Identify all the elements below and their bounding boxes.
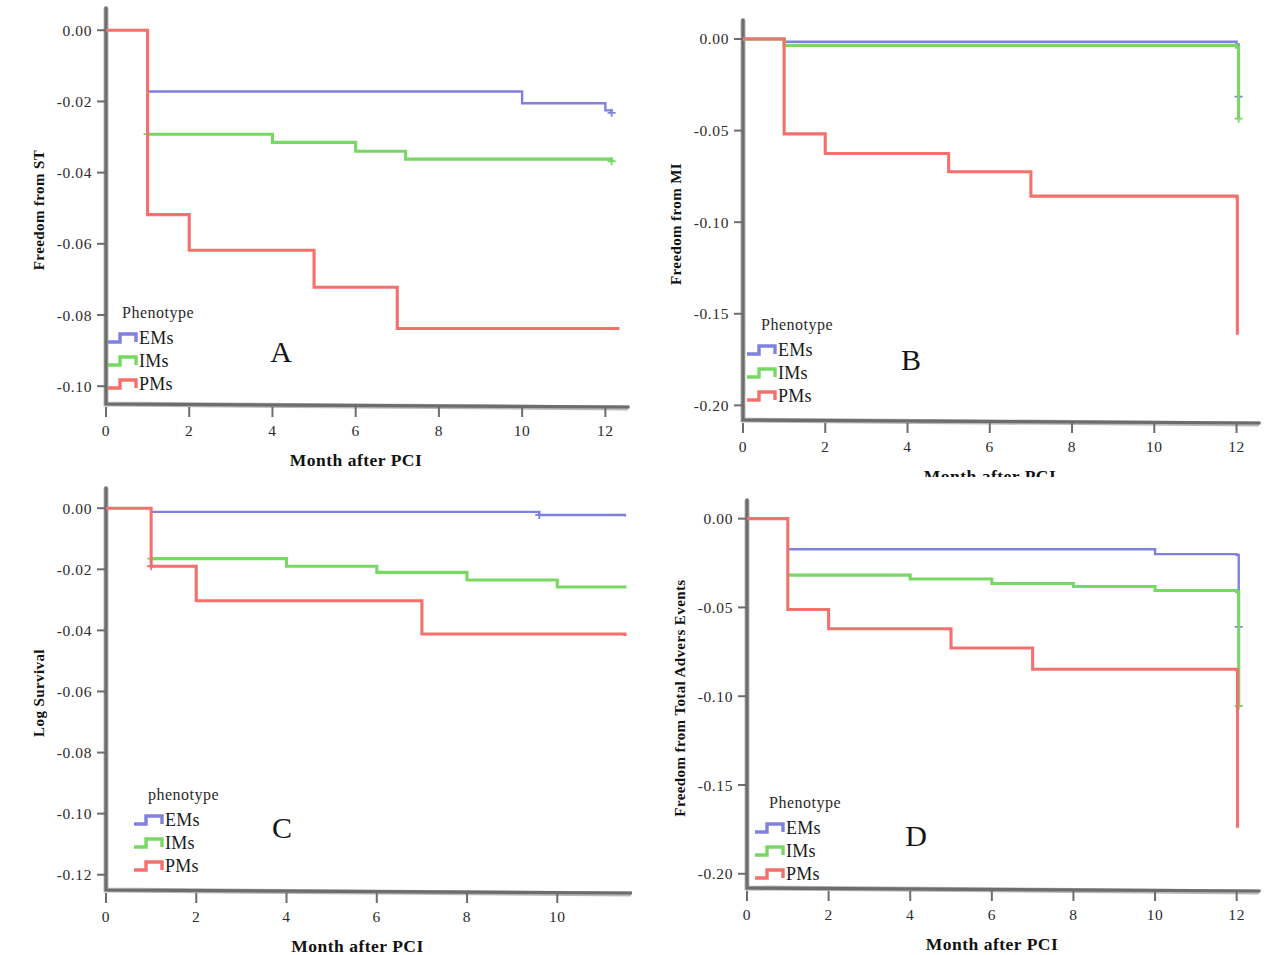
x-axis-title: Month after PCI — [926, 934, 1059, 954]
x-tick-label: 10 — [514, 422, 531, 439]
legend-label-ims: IMs — [139, 351, 169, 371]
x-tick-label: 8 — [1068, 438, 1076, 455]
x-tick-label: 0 — [743, 906, 751, 923]
y-tick-label: -0.12 — [57, 866, 92, 883]
x-tick-label: 6 — [373, 908, 381, 925]
legend-label-ems: EMs — [139, 328, 174, 348]
x-axis-title: Month after PCI — [290, 450, 423, 470]
panel-a-svg: 0.00-0.02-0.04-0.06-0.08-0.10024681012Mo… — [0, 0, 632, 477]
x-axis-title: Month after PCI — [291, 936, 424, 955]
x-tick-label: 12 — [597, 422, 614, 439]
y-tick-label: -0.04 — [57, 622, 92, 639]
legend-label-pms: PMs — [165, 856, 199, 876]
x-tick-label: 0 — [102, 422, 110, 439]
y-tick-label: -0.02 — [57, 93, 92, 110]
panel-d-svg: 0.00-0.05-0.10-0.15-0.20024681012Month a… — [633, 478, 1265, 955]
x-ticks-A: 024681012 — [102, 407, 614, 439]
curve-ims — [151, 559, 625, 589]
panel-letter-c: C — [272, 811, 292, 844]
legend-key-ems — [108, 334, 136, 342]
legend-label-pms: PMs — [786, 864, 820, 884]
figure-root: 0.00-0.02-0.04-0.06-0.08-0.10024681012Mo… — [0, 0, 1265, 955]
axes-B — [743, 20, 1259, 424]
censor-mark-ims — [1235, 115, 1243, 123]
y-tick-label: 0.00 — [62, 22, 92, 39]
x-tick-label: 4 — [268, 422, 276, 439]
y-ticks-A: 0.00-0.02-0.04-0.06-0.08-0.10 — [57, 22, 106, 395]
y-tick-label: -0.08 — [57, 744, 92, 761]
legend-title: Phenotype — [769, 794, 841, 812]
y-tick-label: -0.04 — [57, 164, 92, 181]
legend-key-ims — [755, 847, 783, 855]
curve-pms — [743, 39, 1237, 335]
y-tick-label: -0.08 — [57, 307, 92, 324]
panel-b: 0.00-0.05-0.10-0.15-0.20024681012Month a… — [633, 0, 1265, 477]
y-ticks-C: 0.00-0.02-0.04-0.06-0.08-0.10-0.12 — [57, 500, 106, 884]
panel-a: 0.00-0.02-0.04-0.06-0.08-0.10024681012Mo… — [0, 0, 632, 477]
y-tick-label: -0.05 — [694, 122, 729, 139]
x-tick-label: 12 — [1228, 906, 1245, 923]
legend-key-ems — [755, 824, 783, 832]
legend-key-ims — [134, 839, 162, 847]
panel-letter-a: A — [270, 335, 292, 368]
x-tick-label: 0 — [102, 908, 110, 925]
legend-key-pms — [755, 870, 783, 878]
curve-pms — [106, 508, 625, 636]
y-tick-label: -0.10 — [57, 378, 92, 395]
x-ticks-D: 024681012 — [743, 891, 1245, 923]
y-tick-label: -0.10 — [694, 214, 729, 231]
y-tick-label: -0.10 — [698, 688, 733, 705]
legend-title: Phenotype — [122, 304, 194, 322]
x-tick-label: 6 — [351, 422, 359, 439]
x-tick-label: 0 — [739, 438, 747, 455]
y-axis-title: Freedom from MI — [668, 163, 684, 285]
y-tick-label: -0.20 — [698, 865, 733, 882]
x-tick-label: 8 — [463, 908, 471, 925]
legend-key-ems — [747, 346, 775, 354]
curve-ems — [743, 39, 1239, 97]
legend-label-ems: EMs — [786, 818, 821, 838]
curves-D — [747, 519, 1243, 828]
x-tick-label: 8 — [435, 422, 443, 439]
panel-c-svg: 0.00-0.02-0.04-0.06-0.08-0.10-0.12024681… — [0, 478, 632, 955]
y-tick-label: 0.00 — [699, 30, 729, 47]
curve-ems — [788, 549, 1239, 627]
legend-title: phenotype — [148, 786, 219, 804]
legend-key-ims — [747, 369, 775, 377]
panel-letter-d: D — [905, 819, 927, 852]
x-tick-label: 12 — [1228, 438, 1245, 455]
panel-letter-b: B — [901, 343, 921, 376]
curve-pms — [747, 519, 1237, 828]
curve-ems — [151, 512, 625, 517]
axes-A — [106, 8, 628, 408]
legend-key-ims — [108, 357, 136, 365]
x-tick-label: 2 — [821, 438, 829, 455]
y-tick-label: -0.15 — [698, 777, 733, 794]
x-axis-title: Month after PCI — [924, 466, 1057, 477]
x-ticks-C: 0246810 — [102, 893, 566, 925]
y-tick-label: -0.02 — [57, 561, 92, 578]
axis-lines — [106, 8, 628, 407]
axis-shadow — [743, 20, 1259, 424]
x-tick-label: 10 — [1146, 438, 1163, 455]
x-tick-label: 4 — [903, 438, 911, 455]
curves-B — [743, 39, 1243, 335]
curves-C — [106, 508, 625, 636]
curve-ims — [743, 39, 1239, 119]
legend-C: phenotypeEMsIMsPMs — [134, 786, 219, 876]
y-axis-title: Freedom from Total Advers Events — [672, 579, 688, 816]
legend-label-ims: IMs — [778, 363, 808, 383]
axis-shadow — [747, 500, 1259, 892]
legend-D: PhenotypeEMsIMsPMs — [755, 794, 841, 884]
curve-pms — [106, 30, 618, 330]
legend-label-ims: IMs — [165, 833, 195, 853]
y-axis-title: Log Survival — [31, 649, 47, 737]
x-tick-label: 6 — [988, 906, 996, 923]
legend-key-pms — [108, 380, 136, 388]
x-tick-label: 4 — [906, 906, 914, 923]
curve-ems — [148, 91, 612, 112]
curve-ims — [148, 134, 612, 161]
y-tick-label: -0.06 — [57, 683, 92, 700]
axis-shadow — [106, 8, 628, 408]
legend-key-pms — [134, 862, 162, 870]
